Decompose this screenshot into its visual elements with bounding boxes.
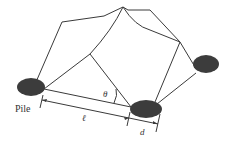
outer-left-edge xyxy=(36,7,123,82)
ell-label: ℓ xyxy=(82,113,86,123)
left-arch-lower xyxy=(44,54,90,89)
d-label: d xyxy=(140,127,145,137)
outer-right-edge xyxy=(123,7,180,42)
theta-arc xyxy=(114,89,117,103)
pile-label: Pile xyxy=(15,103,31,114)
arrow-d-right xyxy=(153,121,158,124)
left-arch-line xyxy=(90,7,123,54)
right-edge-upper xyxy=(180,42,195,67)
right-strut xyxy=(155,42,180,102)
pile-arch-diagram: Pile θ ℓ d xyxy=(0,0,232,146)
pile-left xyxy=(17,78,45,96)
pile-spacing-line xyxy=(44,89,131,107)
diagonal-strut xyxy=(90,54,131,107)
right-edge-lower xyxy=(157,73,196,104)
dim-tick-mid xyxy=(127,112,130,126)
dim-tick-left xyxy=(40,95,43,108)
dim-tick-right xyxy=(156,114,160,132)
pile-right xyxy=(193,55,219,73)
structure-lines xyxy=(36,7,196,132)
theta-label: θ xyxy=(103,89,108,99)
pile-bottom xyxy=(130,100,162,118)
